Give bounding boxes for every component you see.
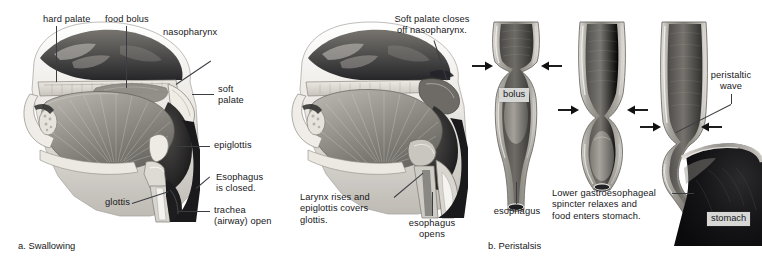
label-food-bolus: food bolus bbox=[105, 14, 149, 25]
label-epiglottis: epiglottis bbox=[214, 140, 252, 151]
leader-esophagus-opens bbox=[432, 192, 433, 216]
label-esophagus-opens: esophagus opens bbox=[396, 218, 468, 241]
leader-trachea-open bbox=[178, 211, 210, 212]
leader-lower-gastroesophageal-sphincter bbox=[672, 193, 694, 194]
tag-bolus: bolus bbox=[499, 88, 529, 102]
caption-panel-b: b. Peristalsis bbox=[488, 240, 541, 251]
arrow-constriction-left-tube-2 bbox=[558, 104, 580, 116]
label-peristaltic-wave: peristaltic wave bbox=[700, 70, 762, 93]
figure-swallowing-peristalsis: hard palate food bolus nasopharynx soft … bbox=[0, 0, 762, 263]
leader-food-bolus bbox=[126, 26, 127, 88]
label-soft-palate-closes-nasopharynx: Soft palate closes off nasopharynx. bbox=[366, 14, 498, 37]
arrow-constriction-left-tube-1 bbox=[472, 60, 494, 72]
label-lower-gastroesophageal-sphincter: Lower gastroesophageal spincter relaxes … bbox=[552, 188, 656, 222]
label-trachea-airway-open: trachea (airway) open bbox=[214, 205, 272, 228]
leader-peristaltic-wave-stem bbox=[731, 94, 732, 104]
leader-hard-palate bbox=[56, 26, 57, 82]
arrow-constriction-right-tube-1 bbox=[540, 60, 562, 72]
arrow-constriction-right-tube-2 bbox=[626, 104, 648, 116]
leader-esophagus-tube-1 bbox=[516, 182, 517, 204]
label-larynx-rises-epiglottis-covers-glottis: Larynx rises and epiglottis covers glott… bbox=[300, 192, 370, 226]
arrow-constriction-left-tube-3 bbox=[640, 121, 662, 133]
head-sagittal-swallowing-artwork bbox=[0, 10, 230, 225]
label-esophagus-is-closed: Esophagus is closed. bbox=[216, 172, 263, 195]
caption-panel-a: a. Swallowing bbox=[18, 240, 75, 251]
tag-stomach: stomach bbox=[707, 212, 750, 226]
leader-epiglottis bbox=[172, 146, 210, 147]
arrow-constriction-right-tube-3 bbox=[700, 121, 722, 133]
leader-soft-palate bbox=[192, 94, 214, 95]
label-esophagus: esophagus bbox=[484, 206, 550, 217]
label-nasopharynx: nasopharynx bbox=[163, 27, 217, 38]
head-sagittal-soft-palate-closed-artwork bbox=[272, 10, 492, 220]
label-soft-palate: soft palate bbox=[218, 84, 244, 107]
label-glottis: glottis bbox=[92, 197, 130, 208]
esophagus-tube-2-artwork bbox=[572, 18, 632, 193]
label-hard-palate: hard palate bbox=[43, 14, 91, 25]
